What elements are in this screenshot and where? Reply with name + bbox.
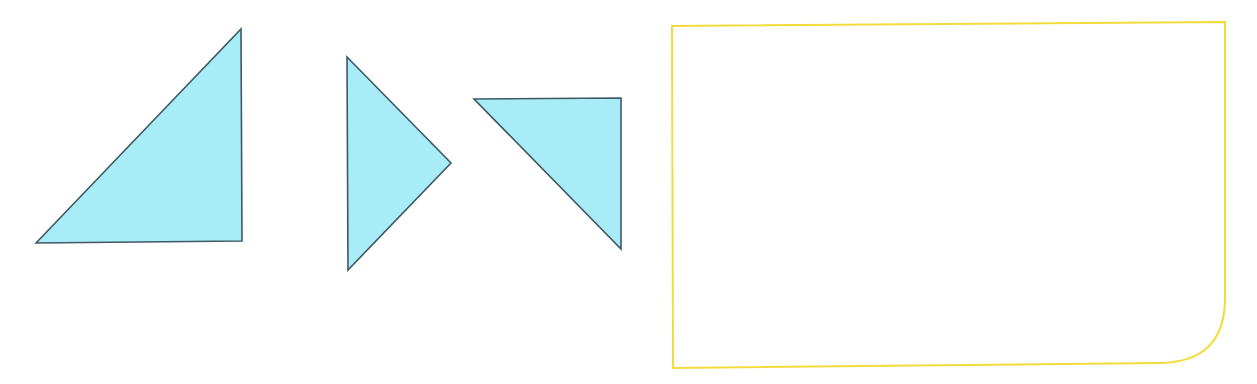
geometry-diagram xyxy=(0,0,1257,384)
